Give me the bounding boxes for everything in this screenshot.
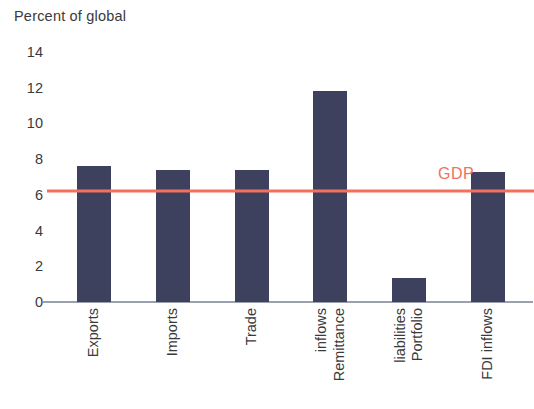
x-axis-label-line: liabilities	[393, 308, 408, 363]
x-axis-label-line: inflows	[314, 308, 329, 352]
bar-remittance-inflows[interactable]	[313, 91, 347, 302]
gdp-line-label: GDP	[438, 165, 474, 183]
bar-slot	[471, 52, 505, 302]
bar-slot	[235, 52, 269, 302]
bar-slot	[392, 52, 426, 302]
chart-title: Percent of global	[14, 8, 126, 24]
x-axis-label-line: Exports	[87, 308, 102, 357]
x-axis-label-line: Portfolio	[410, 308, 425, 361]
bar-portfolio-liabilities[interactable]	[392, 278, 426, 302]
y-axis-tick-label: 4	[35, 223, 43, 239]
gdp-reference-line	[47, 190, 534, 193]
x-axis-label-line: Trade	[244, 308, 259, 345]
x-axis-label-fdi-inflows: FDI inflows	[448, 306, 527, 409]
x-axis-label-portfolio-liabilities: Portfolioliabilities	[370, 306, 449, 409]
bar-slot	[77, 52, 111, 302]
plot-area: 02468101214GDP	[55, 52, 527, 302]
x-axis-label-line: Imports	[165, 308, 180, 356]
bar-slot	[313, 52, 347, 302]
y-axis-tick-label: 6	[35, 187, 43, 203]
chart-figure: Percent of global 02468101214GDP Exports…	[0, 0, 534, 409]
y-axis-tick-label: 12	[27, 80, 43, 96]
y-axis-tick-label: 8	[35, 151, 43, 167]
y-axis-tick-label: 0	[35, 294, 43, 310]
x-axis-label-trade: Trade	[212, 306, 291, 409]
y-axis-tick-label: 14	[27, 44, 43, 60]
bar-exports[interactable]	[77, 166, 111, 302]
x-axis-label-line: Remittance	[331, 308, 346, 381]
x-axis-label-line: FDI inflows	[480, 308, 495, 380]
x-axis-baseline	[43, 301, 533, 303]
y-axis-tick-label: 10	[27, 115, 43, 131]
x-axis-label-remittance-inflows: Remittanceinflows	[291, 306, 370, 409]
x-axis-labels: ExportsImportsTradeRemittanceinflowsPort…	[55, 306, 527, 409]
y-axis-tick-label: 2	[35, 258, 43, 274]
x-axis-label-imports: Imports	[134, 306, 213, 409]
x-axis-label-exports: Exports	[55, 306, 134, 409]
bar-slot	[156, 52, 190, 302]
